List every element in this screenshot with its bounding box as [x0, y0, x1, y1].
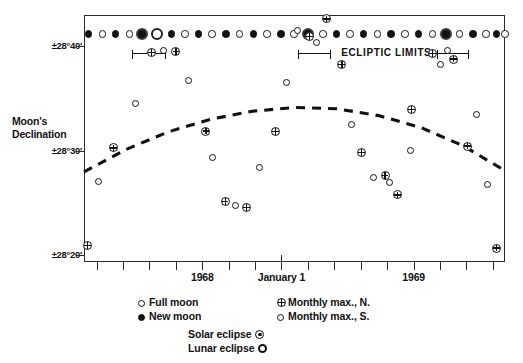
- x-tick-mark: [387, 262, 388, 270]
- ecliptic-limit-bar: [298, 53, 331, 54]
- phase-marker-new: [250, 30, 258, 38]
- phase-marker-new: [85, 30, 93, 38]
- phase-marker-new: [222, 30, 230, 38]
- x-tick-label: 1968: [191, 271, 214, 283]
- filled-circle-icon: [138, 311, 149, 323]
- x-tick-mark: [202, 262, 203, 270]
- data-point-monthly-max-s: [444, 47, 451, 54]
- x-tick-mark: [281, 255, 282, 270]
- phase-marker-lunar: [151, 28, 163, 40]
- phase-marker-new: [415, 30, 423, 38]
- phase-marker-full: [208, 30, 216, 38]
- data-point-monthly-max-s: [95, 178, 102, 185]
- x-tick-mark: [97, 262, 98, 270]
- legend-label: New moon: [149, 310, 201, 322]
- phase-marker-new: [469, 30, 477, 38]
- phase-marker-full: [263, 30, 271, 38]
- phase-marker-full: [374, 30, 382, 38]
- phase-marker-full: [319, 30, 327, 38]
- legend-label: Monthly max., S.: [288, 310, 369, 322]
- data-point-monthly-max-s: [160, 47, 167, 54]
- data-point-monthly-max-s: [473, 111, 480, 118]
- data-point-monthly-max-s: [407, 147, 414, 154]
- circle-with-dot-icon: [251, 329, 264, 341]
- legend-entry-new-moon: New moon: [138, 310, 201, 323]
- phase-marker-new: [277, 30, 285, 38]
- data-point-monthly-max-s: [132, 100, 139, 107]
- x-tick-mark: [149, 262, 150, 270]
- circle-with-cross-icon: [277, 297, 288, 309]
- data-point-monthly-max-n: [271, 127, 280, 136]
- phase-marker-full: [482, 30, 490, 38]
- phase-marker-new: [168, 30, 176, 38]
- y-axis-ticks: ±28°40'±28°30'±28°20': [0, 0, 82, 363]
- legend-label: Solar eclipse: [188, 328, 251, 340]
- data-point-monthly-max-n: [305, 32, 314, 41]
- data-point-monthly-max-s: [283, 79, 290, 86]
- phase-marker-full: [429, 30, 437, 38]
- phase-marker-full: [401, 30, 409, 38]
- data-point-monthly-max-s: [294, 27, 301, 34]
- x-tick-mark: [308, 262, 309, 270]
- x-tick-mark: [414, 262, 415, 270]
- x-tick-mark: [123, 262, 124, 270]
- legend-entry-monthly-max-s: Monthly max., S.: [277, 310, 369, 323]
- legend-label: Full moon: [149, 296, 198, 308]
- legend-entry-full-moon: Full moon: [138, 296, 198, 309]
- x-tick-label: 1969: [402, 271, 425, 283]
- data-point-monthly-max-n: [221, 197, 230, 206]
- x-tick-mark: [466, 262, 467, 270]
- phase-marker-full: [501, 30, 509, 38]
- legend-label: Monthly max., N.: [288, 296, 370, 308]
- legend-entry-monthly-max-n: Monthly max., N.: [277, 296, 370, 309]
- ecliptic-limit-bar: [437, 53, 469, 54]
- data-point-monthly-max-s: [209, 154, 216, 161]
- data-point-monthly-max-n: [492, 244, 501, 253]
- x-tick-mark: [440, 262, 441, 270]
- data-point-monthly-max-s: [484, 181, 491, 188]
- x-tick-mark: [493, 262, 494, 270]
- x-tick-mark: [334, 262, 335, 270]
- x-tick-mark: [176, 262, 177, 270]
- data-point-monthly-max-n: [242, 203, 251, 212]
- x-tick-label: January 1: [258, 271, 305, 283]
- phase-marker-full: [99, 30, 107, 38]
- data-point-monthly-max-n: [449, 55, 458, 64]
- x-tick-mark: [229, 262, 230, 270]
- legend-entry-solar-eclipse: Solar eclipse: [188, 328, 264, 341]
- data-point-monthly-max-s: [348, 121, 355, 128]
- ecliptic-limits-label: ECLIPTIC LIMITS: [341, 47, 431, 58]
- phase-marker-full: [346, 30, 354, 38]
- phase-marker-new: [387, 30, 395, 38]
- phase-marker-solar: [440, 28, 452, 40]
- data-point-monthly-max-n: [463, 142, 472, 151]
- data-point-monthly-max-s: [437, 61, 444, 68]
- legend-entry-lunar-eclipse: Lunar eclipse: [188, 342, 267, 355]
- legend-label: Lunar eclipse: [188, 342, 254, 354]
- data-point-monthly-max-s: [313, 39, 320, 46]
- phase-marker-full: [126, 30, 134, 38]
- data-point-monthly-max-n: [357, 148, 366, 157]
- x-tick-mark: [361, 262, 362, 270]
- plot-area: ECLIPTIC LIMITS: [84, 15, 505, 262]
- data-point-monthly-max-n: [201, 127, 210, 136]
- phase-marker-full: [181, 30, 189, 38]
- open-circle-icon: [277, 311, 288, 323]
- x-tick-mark: [255, 262, 256, 270]
- double-circle-icon: [254, 343, 267, 355]
- phase-marker-new: [333, 30, 341, 38]
- phase-marker-full: [236, 30, 244, 38]
- moon-declination-chart: Moon's Declination ±28°40'±28°30'±28°20'…: [0, 0, 523, 363]
- open-circle-icon: [138, 297, 149, 309]
